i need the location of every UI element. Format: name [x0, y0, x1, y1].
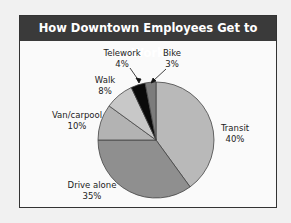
label-bike-pct: 3%: [165, 59, 179, 69]
label-telework: Telework: [102, 48, 140, 58]
label-bike: Bike: [163, 48, 181, 58]
label-drive-alone-pct: 35%: [83, 191, 102, 201]
label-telework-pct: 4%: [115, 59, 129, 69]
label-walk: Walk: [95, 75, 115, 85]
label-walk-pct: 8%: [98, 86, 112, 96]
pie-chart: Telework 4% Bike 3% Walk 8% Van/carpool …: [0, 0, 291, 223]
label-transit: Transit: [220, 123, 250, 133]
label-drive-alone: Drive alone: [68, 180, 117, 190]
label-van-carpool: Van/carpool: [52, 110, 102, 120]
label-van-carpool-pct: 10%: [68, 121, 87, 131]
label-transit-pct: 40%: [226, 134, 245, 144]
